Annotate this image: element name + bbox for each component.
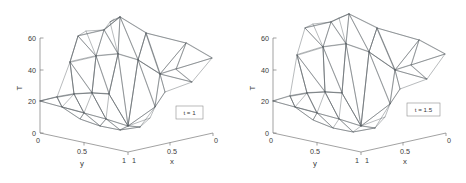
y-tick-label-05: 0.5 <box>77 147 87 156</box>
x-tick-label-1: 1 <box>365 156 369 165</box>
z-axis-label: T <box>15 85 24 90</box>
plot-panel-right[interactable]: 60 40 20 0 0 0.5 1 1 0.5 0 T y x t = 1.5 <box>233 0 466 183</box>
surface-plot-right: 60 40 20 0 0 0.5 1 1 0.5 0 T y x t = 1.5 <box>233 0 466 183</box>
z-tick-label-60: 60 <box>28 34 36 43</box>
z-tick-label-60: 60 <box>261 34 269 43</box>
annotation-label: t = 1.5 <box>415 106 433 113</box>
x-tick-label-05: 0.5 <box>167 147 177 156</box>
annotation-label: t = 1 <box>183 109 196 116</box>
z-tick-label-20: 20 <box>261 97 269 106</box>
y-axis-label: y <box>313 159 317 168</box>
figure-canvas: 60 40 20 0 0 0.5 1 1 0.5 0 T y x t = 1 <box>0 0 466 183</box>
tick-labels-left: 60 40 20 0 0 0.5 1 1 0.5 0 <box>28 34 218 166</box>
y-tick-label-0: 0 <box>269 136 273 145</box>
surface-plot-left: 60 40 20 0 0 0.5 1 1 0.5 0 T y x t = 1 <box>0 0 233 183</box>
x-tick-label-0: 0 <box>447 136 451 145</box>
axis-names-right: T y x <box>248 85 407 168</box>
y-tick-label-1: 1 <box>355 156 359 165</box>
axes-left <box>40 38 213 155</box>
y-axis-label: y <box>80 159 84 168</box>
z-axis-label: T <box>248 85 257 90</box>
z-tick-label-40: 40 <box>28 66 36 75</box>
annotation-box-right[interactable]: t = 1.5 <box>407 103 440 116</box>
plot-panel-left[interactable]: 60 40 20 0 0 0.5 1 1 0.5 0 T y x t = 1 <box>0 0 233 183</box>
axes-right <box>273 38 446 155</box>
y-tick-label-1: 1 <box>122 156 126 165</box>
annotation-box-left[interactable]: t = 1 <box>176 106 203 119</box>
y-tick-label-0: 0 <box>36 136 40 145</box>
x-tick-label-05: 0.5 <box>400 147 410 156</box>
x-tick-label-0: 0 <box>214 136 218 145</box>
z-tick-label-40: 40 <box>261 66 269 75</box>
x-axis-label: x <box>170 157 174 166</box>
z-tick-label-20: 20 <box>28 97 36 106</box>
y-tick-label-05: 0.5 <box>310 147 320 156</box>
x-axis-label: x <box>403 157 407 166</box>
x-tick-label-1: 1 <box>132 156 136 165</box>
